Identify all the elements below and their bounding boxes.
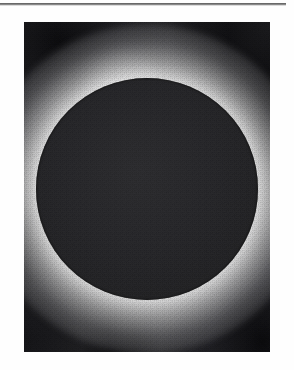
eclipse-photograph: [24, 22, 270, 352]
horizontal-rule: [0, 3, 286, 5]
halftone-screen: [24, 22, 270, 352]
document-page: [0, 0, 294, 370]
